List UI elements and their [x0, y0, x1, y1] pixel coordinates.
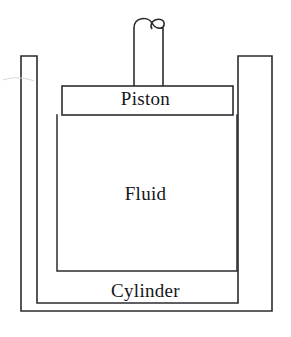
diagram-background: [0, 0, 291, 337]
piston-plate-rect: [62, 86, 233, 115]
piston-cylinder-drawing: [0, 0, 291, 337]
diagram-canvas: Piston Fluid Cylinder: [0, 0, 291, 337]
piston-plate-group: [62, 86, 233, 115]
